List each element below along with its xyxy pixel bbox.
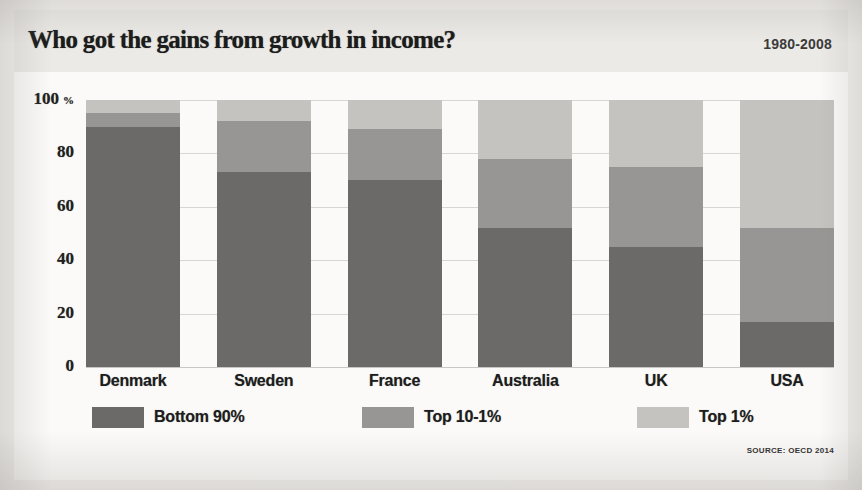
y-axis-tick-80: 80	[57, 142, 74, 162]
period-label: 1980-2008	[763, 36, 832, 52]
bar-segment-uk-bottom-90[interactable]	[609, 247, 703, 367]
legend-swatch-top-1	[637, 407, 689, 428]
bar-segment-france-bottom-90[interactable]	[348, 180, 442, 367]
bar-sweden[interactable]	[217, 100, 311, 367]
bar-segment-sweden-bottom-90[interactable]	[217, 172, 311, 367]
bar-segment-uk-top-1[interactable]	[609, 100, 703, 167]
legend-swatch-bottom-90	[92, 407, 144, 428]
bar-segment-france-top-10-1[interactable]	[348, 129, 442, 180]
legend-label-top-10-1: Top 10-1%	[424, 408, 501, 426]
bar-segment-denmark-top-10-1[interactable]	[86, 113, 180, 126]
category-label-france: France	[348, 372, 442, 398]
chart-legend: Bottom 90% Top 10-1% Top 1%	[92, 404, 834, 434]
category-label-denmark: Denmark	[86, 372, 180, 398]
category-label-usa: USA	[740, 372, 834, 398]
source-note: SOURCE: OECD 2014	[747, 446, 834, 455]
chart-header: Who got the gains from growth in income?…	[14, 10, 848, 72]
chart-panel: Who got the gains from growth in income?…	[14, 10, 848, 480]
category-axis-labels: DenmarkSwedenFranceAustraliaUKUSA	[86, 372, 834, 398]
legend-swatch-top-10-1	[362, 407, 414, 428]
bar-segment-sweden-top-10-1[interactable]	[217, 121, 311, 172]
bar-segment-australia-top-10-1[interactable]	[478, 159, 572, 228]
bar-segment-usa-top-10-1[interactable]	[740, 228, 834, 321]
bar-segment-uk-top-10-1[interactable]	[609, 167, 703, 247]
bar-france[interactable]	[348, 100, 442, 367]
y-axis-tick-0: 0	[66, 356, 75, 376]
bar-usa[interactable]	[740, 100, 834, 367]
gridline-0	[86, 367, 834, 368]
y-axis-tick-100: 100%	[34, 89, 75, 109]
legend-label-bottom-90: Bottom 90%	[154, 408, 244, 426]
bar-segment-sweden-top-1[interactable]	[217, 100, 311, 121]
bar-segment-australia-top-1[interactable]	[478, 100, 572, 159]
plot-wrapper: 100%806040200 DenmarkSwedenFranceAustral…	[14, 72, 848, 480]
legend-item-top-10-1[interactable]: Top 10-1%	[362, 404, 501, 430]
chart-screenshot: Who got the gains from growth in income?…	[0, 0, 862, 490]
bar-segment-australia-bottom-90[interactable]	[478, 228, 572, 367]
y-axis-tick-60: 60	[57, 196, 74, 216]
bar-segment-france-top-1[interactable]	[348, 100, 442, 129]
category-label-sweden: Sweden	[217, 372, 311, 398]
bar-group	[86, 100, 834, 367]
y-axis-tick-20: 20	[57, 303, 74, 323]
bar-segment-usa-bottom-90[interactable]	[740, 322, 834, 367]
y-axis-unit: %	[63, 94, 74, 106]
bar-uk[interactable]	[609, 100, 703, 367]
plot-area	[86, 100, 834, 367]
category-label-australia: Australia	[478, 372, 572, 398]
y-axis-tick-40: 40	[57, 249, 74, 269]
bar-segment-denmark-top-1[interactable]	[86, 100, 180, 113]
bar-denmark[interactable]	[86, 100, 180, 367]
legend-label-top-1: Top 1%	[699, 408, 754, 426]
bar-australia[interactable]	[478, 100, 572, 367]
legend-item-top-1[interactable]: Top 1%	[637, 404, 754, 430]
bar-segment-denmark-bottom-90[interactable]	[86, 127, 180, 367]
chart-title: Who got the gains from growth in income?	[28, 26, 455, 54]
bar-segment-usa-top-1[interactable]	[740, 100, 834, 228]
legend-item-bottom-90[interactable]: Bottom 90%	[92, 404, 244, 430]
category-label-uk: UK	[609, 372, 703, 398]
